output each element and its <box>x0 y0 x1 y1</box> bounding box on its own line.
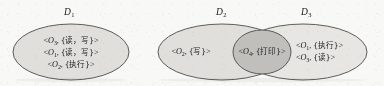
entry-item: <O2, {执行}> <box>48 59 95 71</box>
entry-object: O <box>52 60 58 69</box>
entry-object: O <box>176 47 182 56</box>
entry-list-d1: <O3, {读，写}> <O1, {读，写}> <O2, {执行}> <box>0 35 142 72</box>
entry-rights: {执行} <box>65 60 90 69</box>
entry-item: <O3, {读，写}> <box>44 35 99 47</box>
entry-item: <O2, {写}> <box>171 46 210 58</box>
entry-object-subscript: 4 <box>249 51 252 57</box>
entry-close: > <box>90 60 95 69</box>
entry-list-d3: <O1, {执行}> <O3, {读}> <box>296 40 374 64</box>
entry-close: > <box>338 41 343 50</box>
entry-item: <O1, {执行}> <box>296 40 343 52</box>
entry-rights: {打印} <box>256 47 281 56</box>
entry-close: > <box>331 53 336 62</box>
domain-label-d1-text: D <box>64 7 71 17</box>
entry-close: > <box>281 47 286 56</box>
entry-object-subscript: 2 <box>182 51 185 57</box>
entry-list-intersection: <O4, {打印}> <box>224 46 300 58</box>
scan-shadow-left <box>15 78 127 82</box>
entry-item: <O3, {读}> <box>296 52 335 64</box>
entry-object-subscript: 1 <box>306 45 309 51</box>
domain-label-d2: D2 <box>216 8 227 18</box>
domain-label-d3: D3 <box>301 8 312 18</box>
scan-shadow-right <box>158 78 366 82</box>
domain-label-d2-text: D <box>216 7 223 17</box>
entry-object: O <box>243 47 249 56</box>
domain-label-d1: D1 <box>64 8 75 18</box>
entry-rights: {读，写} <box>61 48 94 57</box>
entry-rights: {写} <box>189 47 206 56</box>
entry-list-d2: <O2, {写}> <box>160 46 222 58</box>
entry-object-subscript: 3 <box>306 57 309 63</box>
entry-object-subscript: 3 <box>54 40 57 46</box>
entry-item: <O4, {打印}> <box>239 46 286 58</box>
entry-item: <O1, {读，写}> <box>44 47 99 59</box>
entry-rights: {读} <box>313 53 330 62</box>
entry-close: > <box>206 47 211 56</box>
domain-venn-figure: D1 D2 D3 <O3, {读，写}> <O1, {读，写}> <O2, {执… <box>0 0 384 86</box>
domain-label-d2-subscript: 2 <box>223 11 226 18</box>
entry-object-subscript: 1 <box>54 52 57 58</box>
domain-label-d1-subscript: 1 <box>71 11 74 18</box>
entry-rights: {执行} <box>313 41 338 50</box>
entry-object-subscript: 2 <box>58 64 61 70</box>
domain-label-d3-subscript: 3 <box>308 11 311 18</box>
domain-label-d3-text: D <box>301 7 308 17</box>
entry-close: > <box>94 48 99 57</box>
entry-rights: {读，写} <box>61 36 94 45</box>
entry-close: > <box>94 36 99 45</box>
